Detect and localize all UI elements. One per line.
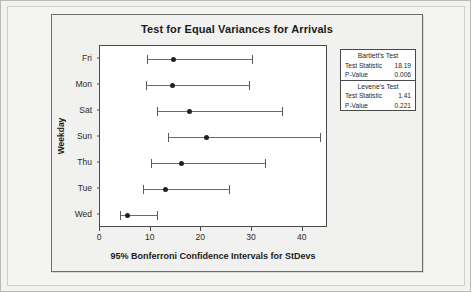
statistics-row-value: 1.41 xyxy=(398,92,411,99)
x-axis-tick-label: 0 xyxy=(97,232,102,242)
statistics-section: Bartlett's TestTest Statistic18.19P-Valu… xyxy=(341,50,415,80)
statistics-row-key: P-Value xyxy=(345,71,368,78)
interval-cap xyxy=(249,81,250,90)
interval-center-point xyxy=(179,161,184,166)
interval-cap xyxy=(157,107,158,116)
x-axis-tick-label: 20 xyxy=(196,232,205,242)
interval-cap xyxy=(147,55,148,64)
y-axis-tick-label: Thu xyxy=(77,157,92,167)
y-axis-tick-label: Fri xyxy=(82,53,92,63)
screenshot-root: Test for Equal Variances for Arrivals We… xyxy=(0,0,471,292)
interval-cap xyxy=(168,133,169,142)
interval-cap xyxy=(146,81,147,90)
interval-cap xyxy=(282,107,283,116)
statistics-section: Levene's TestTest Statistic1.41P-Value0.… xyxy=(341,80,415,111)
y-axis-labels: FriMonSatSunThuTueWed xyxy=(52,45,97,227)
statistics-row-key: Test Statistic xyxy=(345,92,382,99)
x-axis-tick-label: 10 xyxy=(145,232,154,242)
interval-center-point xyxy=(204,135,209,140)
statistics-row-key: Test Statistic xyxy=(345,62,382,69)
statistics-section-title: Levene's Test xyxy=(341,81,415,92)
interval-cap xyxy=(151,159,152,168)
interval-center-point xyxy=(125,213,130,218)
interval-line xyxy=(146,85,249,86)
chart-title: Test for Equal Variances for Arrivals xyxy=(52,23,422,35)
statistics-section-title: Bartlett's Test xyxy=(341,50,415,61)
interval-cap xyxy=(265,159,266,168)
interval-center-point xyxy=(187,109,192,114)
x-axis-tick xyxy=(302,227,303,231)
graph-window: Test for Equal Variances for Arrivals We… xyxy=(51,14,423,272)
x-axis: 010203040 xyxy=(99,227,327,249)
y-axis-tick-label: Mon xyxy=(75,79,92,89)
x-axis-title: 95% Bonferroni Confidence Intervals for … xyxy=(82,251,344,261)
plot-area xyxy=(99,45,327,227)
interval-center-point xyxy=(163,187,168,192)
interval-line xyxy=(147,59,252,60)
x-axis-tick xyxy=(99,227,100,231)
interval-cap xyxy=(157,211,158,220)
x-axis-tick xyxy=(251,227,252,231)
x-axis-tick-label: 40 xyxy=(297,232,306,242)
statistics-row-value: 18.19 xyxy=(394,62,411,69)
interval-cap xyxy=(120,211,121,220)
y-axis-tick-label: Sun xyxy=(77,131,92,141)
interval-line xyxy=(168,137,319,138)
interval-line xyxy=(143,189,229,190)
statistics-row: Test Statistic18.19 xyxy=(341,61,415,71)
interval-cap xyxy=(320,133,321,142)
interval-line xyxy=(157,111,283,112)
statistics-row-value: 0.221 xyxy=(394,102,411,109)
y-axis-tick-label: Sat xyxy=(79,105,92,115)
interval-line xyxy=(151,163,265,164)
statistics-row: Test Statistic1.41 xyxy=(341,91,415,101)
interval-cap xyxy=(143,185,144,194)
statistics-row: P-Value0.221 xyxy=(341,101,415,111)
statistics-row: P-Value0.006 xyxy=(341,70,415,80)
x-axis-tick-label: 30 xyxy=(246,232,255,242)
test-statistics-box: Bartlett's TestTest Statistic18.19P-Valu… xyxy=(340,49,416,111)
interval-cap xyxy=(252,55,253,64)
statistics-row-key: P-Value xyxy=(345,102,368,109)
x-axis-tick xyxy=(200,227,201,231)
y-axis-tick-label: Tue xyxy=(78,183,92,193)
interval-cap xyxy=(229,185,230,194)
interval-plot xyxy=(100,46,326,226)
statistics-row-value: 0.006 xyxy=(394,71,411,78)
y-axis-tick-label: Wed xyxy=(75,209,92,219)
interval-center-point xyxy=(171,57,176,62)
interval-center-point xyxy=(170,83,175,88)
x-axis-tick xyxy=(150,227,151,231)
